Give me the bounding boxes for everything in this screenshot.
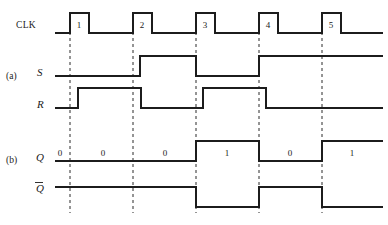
waveform-clk <box>55 13 383 33</box>
group-label-a: (a) <box>6 71 17 82</box>
group-label-b: (b) <box>6 155 17 166</box>
clk-pulse-number-3: 3 <box>203 20 208 30</box>
waveform-r <box>55 88 383 108</box>
q-state-label-2: 0 <box>163 148 168 158</box>
row-label-r: R <box>36 98 44 110</box>
q-state-label-5: 1 <box>350 148 355 158</box>
row-label-q: Q <box>36 151 44 163</box>
waveform-qbar <box>55 187 383 207</box>
row-label-clk: CLK <box>16 20 36 30</box>
clk-pulse-number-4: 4 <box>266 20 271 30</box>
row-label-s: S <box>37 66 43 78</box>
clk-pulse-number-1: 1 <box>77 20 82 30</box>
q-state-label-3: 1 <box>225 148 230 158</box>
q-state-label-0: 0 <box>58 148 63 158</box>
clk-pulse-number-5: 5 <box>329 20 334 30</box>
timing-diagram-svg: CLK (a) S R (b) Q Q 1 2 3 4 5 0 0 0 1 0 <box>0 0 388 225</box>
timing-diagram-figure: CLK (a) S R (b) Q Q 1 2 3 4 5 0 0 0 1 0 <box>0 0 388 225</box>
clk-pulse-number-2: 2 <box>140 20 145 30</box>
q-state-label-4: 0 <box>288 148 293 158</box>
row-label-qbar: Q <box>36 182 44 194</box>
waveform-s <box>55 56 383 76</box>
q-state-label-1: 0 <box>101 148 106 158</box>
